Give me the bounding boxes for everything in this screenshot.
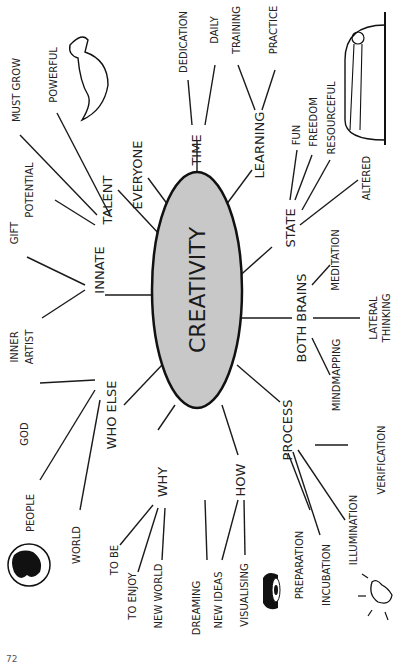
leaf-to-enjoy: TO ENJOY — [127, 571, 138, 620]
leaf-artist: ARTIST — [24, 329, 35, 364]
branch-learning: LEARNING — [252, 112, 267, 179]
leaf-potential: POTENTIAL — [24, 162, 35, 218]
leaf-people: PEOPLE — [25, 494, 36, 532]
leaf-must-grow: MUST GROW — [11, 58, 22, 122]
page-number: 72 — [6, 654, 17, 664]
central-label: CREATIVITY — [185, 226, 210, 353]
branch-both-brains: BOTH BRAINS — [294, 274, 309, 363]
leaf-powerful: POWERFUL — [48, 47, 59, 103]
globe-icon — [8, 544, 50, 586]
leaf-altered: ALTERED — [361, 155, 372, 200]
branch-how: HOW — [233, 463, 248, 496]
branch-talent: TALENT — [100, 175, 115, 225]
branch-time: TIME — [189, 134, 204, 166]
leaf-dedication: DEDICATION — [178, 11, 189, 73]
leaf-thinking: THINKING — [381, 294, 392, 344]
leaf-dreaming: DREAMING — [191, 581, 202, 636]
leaf-verification: VERIFICATION — [376, 425, 387, 494]
leaf-incubation: INCUBATION — [321, 544, 332, 606]
branch-innate: INNATE — [92, 246, 107, 293]
leaf-visualising: VISUALISING — [239, 563, 250, 626]
leaf-resourceful: RESOURCEFUL — [326, 81, 337, 155]
leaf-preparation: PREPARATION — [294, 531, 305, 600]
leaf-to-be: TO BE — [109, 545, 120, 576]
leaf-freedom: FREEDOM — [308, 97, 319, 147]
leaf-lateral: LATERAL — [368, 296, 379, 340]
leaf-inner: INNER — [9, 331, 20, 362]
leaf-training: TRAINING — [231, 6, 242, 55]
person-in-bath-icon — [345, 12, 385, 145]
creativity-mind-map: CREATIVITY INNATE GIFT INNER ARTIST TALE… — [0, 0, 398, 665]
branch-why: WHY — [155, 467, 170, 498]
leaf-meditation: MEDITATION — [330, 229, 341, 290]
eye-icon — [263, 573, 280, 609]
leaf-god: GOD — [19, 422, 30, 446]
arm-icon — [70, 37, 108, 120]
leaf-mindmapping: MINDMAPPING — [331, 339, 342, 411]
lightbulb-icon — [358, 574, 392, 620]
branch-who-else: WHO ELSE — [104, 381, 119, 450]
branch-process: PROCESS — [280, 400, 295, 461]
leaf-new-world: NEW WORLD — [153, 563, 164, 628]
central-node: CREATIVITY — [152, 172, 242, 408]
leaf-fun: FUN — [291, 125, 302, 146]
branch-state: STATE — [283, 208, 298, 247]
leaf-illumination: ILLUMINATION — [348, 495, 359, 565]
leaf-new-ideas: NEW IDEAS — [213, 571, 224, 628]
branch-everyone: EVERYONE — [130, 141, 145, 210]
leaf-world: WORLD — [71, 526, 82, 564]
leaf-gift: GIFT — [9, 221, 20, 244]
leaf-practice: PRACTICE — [268, 6, 279, 55]
leaf-daily: DAILY — [209, 15, 220, 44]
